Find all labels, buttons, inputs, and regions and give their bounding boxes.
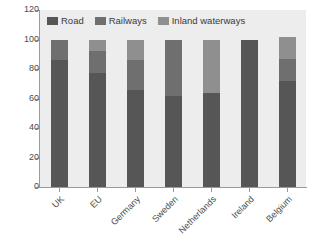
x-tick-mark	[135, 188, 136, 192]
y-tick-label: 100	[7, 35, 39, 44]
y-tick-label: 80	[7, 64, 39, 73]
bar-segment-inland-waterways	[279, 37, 296, 59]
bar-stack	[203, 40, 220, 187]
bar-segment-railways	[127, 60, 144, 90]
legend-item: Inland waterways	[158, 16, 245, 26]
bar-stack	[127, 40, 144, 187]
legend-swatch-road-icon	[47, 17, 58, 25]
bar-segment-inland-waterways	[127, 40, 144, 61]
stacked-bar-chart: 020406080100120 UKEUGermanySwedenNetherl…	[0, 0, 312, 244]
bar-segment-railways	[165, 40, 182, 96]
bar-segment-road	[51, 60, 68, 187]
bar-stack	[241, 40, 258, 188]
chart-legend: RoadRailwaysInland waterways	[47, 16, 245, 26]
x-tick-mark	[173, 188, 174, 192]
legend-item: Road	[47, 16, 84, 26]
x-tick-mark	[249, 188, 250, 192]
bar-segment-road	[127, 90, 144, 187]
legend-swatch-inland-waterways-icon	[158, 17, 169, 25]
bar-segment-road	[203, 93, 220, 187]
y-axis-line	[39, 10, 40, 188]
bar-segment-road	[241, 40, 258, 188]
y-tick-label: 20	[7, 153, 39, 162]
legend-item: Railways	[95, 16, 147, 26]
y-tick-label: 0	[7, 182, 39, 191]
bar-segment-inland-waterways	[89, 40, 106, 52]
bar-segment-road	[89, 73, 106, 187]
bar-stack	[279, 37, 296, 187]
y-tick-label: 120	[7, 5, 39, 14]
bar-segment-railways	[51, 40, 68, 61]
legend-label: Road	[61, 16, 84, 26]
bar-segment-railways	[279, 59, 296, 81]
legend-swatch-railways-icon	[95, 17, 106, 25]
bar-segment-railways	[89, 51, 106, 73]
bar-segment-road	[165, 96, 182, 187]
bar-segment-road	[279, 81, 296, 187]
x-tick-mark	[59, 188, 60, 192]
x-tick-mark	[287, 188, 288, 192]
bar-stack	[165, 40, 182, 187]
y-tick-label: 60	[7, 94, 39, 103]
legend-label: Inland waterways	[172, 16, 245, 26]
x-tick-mark	[97, 188, 98, 192]
x-tick-mark	[211, 188, 212, 192]
legend-label: Railways	[109, 16, 147, 26]
bar-stack	[51, 40, 68, 187]
y-tick-label: 40	[7, 123, 39, 132]
bar-stack	[89, 40, 106, 187]
bar-segment-inland-waterways	[203, 40, 220, 93]
